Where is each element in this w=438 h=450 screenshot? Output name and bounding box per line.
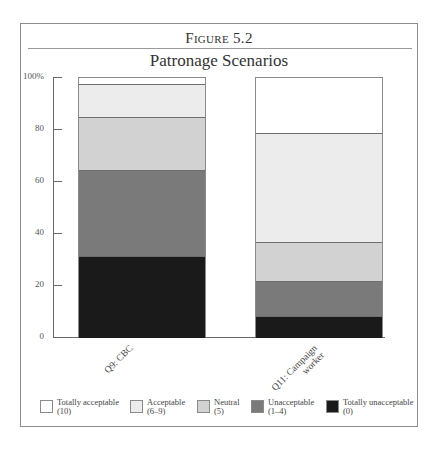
legend-swatch [40, 400, 53, 413]
bar-segment [256, 316, 382, 338]
legend-swatch [326, 400, 339, 413]
bar-segment [256, 133, 382, 242]
legend-sub: (6–9) [147, 406, 165, 416]
legend-label: Totally unacceptable [343, 397, 413, 407]
legend-sub: (1–4) [268, 406, 286, 416]
figure-label: Figure 5.2 [0, 30, 438, 47]
y-tick-label: 20 [10, 279, 44, 289]
y-tick [53, 337, 62, 338]
legend-sub: (5) [214, 406, 224, 416]
y-tick-label: 60 [10, 175, 44, 185]
y-tick-label: 80 [10, 123, 44, 133]
y-tick [53, 129, 62, 130]
bar-segment [79, 117, 205, 170]
legend-sub: (10) [57, 406, 71, 416]
y-tick-label: 40 [10, 227, 44, 237]
legend-swatch [130, 400, 143, 413]
y-tick [53, 181, 62, 182]
legend-sub: (0) [343, 406, 353, 416]
y-tick-label: 0 [10, 331, 44, 341]
bar-segment [256, 78, 382, 133]
stacked-bar [255, 77, 383, 337]
y-axis [53, 77, 54, 337]
y-tick [53, 77, 62, 78]
legend-swatch [251, 400, 264, 413]
header-rule [28, 48, 412, 49]
bar-segment [79, 170, 205, 256]
legend: Totally acceptable(10) Acceptable(6–9) N… [40, 400, 420, 424]
bar-segment [79, 78, 205, 84]
chart-title: Patronage Scenarios [0, 51, 438, 71]
legend-swatch [197, 400, 210, 413]
y-tick [53, 285, 62, 286]
y-tick [53, 233, 62, 234]
y-tick-label: 100% [10, 71, 44, 81]
stacked-bar [78, 77, 206, 337]
bar-segment [79, 256, 205, 338]
bar-segment [79, 84, 205, 117]
bar-segment [256, 281, 382, 316]
bar-segment [256, 242, 382, 281]
